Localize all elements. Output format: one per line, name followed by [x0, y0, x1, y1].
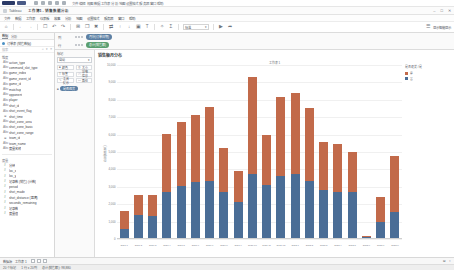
field-menu-icon[interactable]: ≡ — [50, 48, 52, 51]
marks-shelf-pill-row[interactable]: ■ 是否退货 — [55, 83, 94, 91]
bar-segment-yes[interactable] — [305, 108, 314, 181]
data-pane-tabs[interactable]: 数据 分析 — [0, 33, 54, 40]
menu-item-file[interactable]: 文件 — [4, 16, 10, 21]
bar-segment-no[interactable] — [333, 192, 342, 239]
menu-item-format[interactable]: 设置格式 — [87, 16, 99, 21]
share-icon[interactable]: ➦ — [227, 24, 233, 30]
new-worksheet-icon[interactable]: ⊞ — [75, 24, 81, 30]
os-icon-5[interactable] — [62, 1, 66, 5]
bar-column[interactable] — [117, 65, 131, 239]
new-worksheet-icon[interactable] — [31, 259, 35, 263]
drag-handle-icon[interactable] — [75, 44, 83, 46]
menu-item-worksheet[interactable]: 工作表 — [26, 16, 35, 21]
new-sheet-icons[interactable] — [31, 259, 47, 263]
presentation-mode-icon[interactable]: ▶ — [218, 24, 224, 30]
bar-column[interactable] — [160, 65, 174, 239]
bar-segment-yes[interactable] — [291, 93, 300, 174]
stacked-bar[interactable] — [248, 77, 257, 239]
bar-column[interactable] — [359, 65, 373, 239]
redo-icon[interactable]: ↷ — [60, 24, 66, 30]
sort-descending-icon[interactable]: ↓ — [126, 24, 132, 30]
os-icon-1[interactable] — [34, 1, 38, 5]
bar-segment-yes[interactable] — [205, 107, 214, 181]
bar-segment-no[interactable] — [219, 192, 228, 240]
stacked-bar[interactable] — [305, 108, 314, 239]
grid-view-icon[interactable]: ⊟ — [443, 259, 446, 263]
new-dashboard-icon[interactable] — [37, 259, 41, 263]
data-pane-search[interactable]: 搜索 ⌕ ▾ ≡ — [0, 47, 54, 53]
bar-segment-yes[interactable] — [177, 122, 186, 186]
bar-segment-no[interactable] — [262, 185, 271, 239]
minimize-icon[interactable]: – — [433, 9, 435, 13]
bar-segment-yes[interactable] — [376, 197, 385, 221]
tab-analytics[interactable]: 分析 — [11, 34, 17, 39]
bar-segment-no[interactable] — [390, 212, 399, 239]
tab-sheet-1[interactable]: 工作表 1 — [15, 259, 27, 264]
forward-icon[interactable]: → — [27, 24, 33, 30]
stacked-bar[interactable] — [348, 152, 357, 239]
measure-measure-values[interactable]: #度量值 — [0, 211, 54, 216]
legend-item-yes[interactable]: 是 — [405, 71, 451, 75]
bar-column[interactable] — [174, 65, 188, 239]
marks-color-button[interactable]: ■颜色 — [57, 65, 74, 70]
bar-column[interactable] — [374, 65, 388, 239]
tab-data[interactable]: 数据 — [2, 33, 8, 39]
new-story-icon[interactable] — [43, 259, 47, 263]
bar-segment-yes[interactable] — [134, 195, 143, 215]
stacked-bar[interactable] — [120, 211, 129, 239]
marks-shelf-pill[interactable]: 是否退货 — [60, 86, 78, 91]
search-icon[interactable]: ⌕ — [42, 48, 44, 51]
stacked-bar[interactable] — [276, 97, 285, 239]
bar-segment-no[interactable] — [276, 176, 285, 239]
bar-column[interactable] — [231, 65, 245, 239]
menu-item-data[interactable]: 数据 — [15, 16, 21, 21]
marks-detail-button[interactable]: ⓘ详细信息 — [76, 72, 93, 77]
menu-item-map[interactable]: 地图 — [76, 16, 82, 21]
duplicate-sheet-icon[interactable]: ❐ — [84, 24, 90, 30]
bar-segment-yes[interactable] — [390, 156, 399, 212]
sort-fields-icon[interactable]: ▾ — [46, 48, 48, 51]
show-me-button[interactable]: ☰ 显示智能显示 — [425, 24, 451, 30]
bar-segment-no[interactable] — [177, 186, 186, 239]
bar-segment-yes[interactable] — [348, 152, 357, 192]
bar-column[interactable] — [260, 65, 274, 239]
pill-columns-field[interactable]: 月份(订单日期) — [86, 34, 112, 39]
menu-item-window[interactable]: 窗口 — [118, 16, 124, 21]
menu-bar[interactable]: 文件 数据 工作表 仪表板 故事 分析 地图 设置格式 服务器 窗口 帮助 — [0, 15, 454, 22]
bar-segment-no[interactable] — [191, 182, 200, 239]
menu-item-analysis[interactable]: 分析 — [65, 16, 71, 21]
plot-area[interactable]: 01,0002,0003,0004,0005,0006,0007,0008,00… — [117, 65, 402, 239]
status-bar[interactable]: 数据源 工作表 1 ⊟ ⌖ — [0, 257, 454, 264]
os-quick-icons[interactable] — [26, 1, 66, 5]
bar-column[interactable] — [274, 65, 288, 239]
bar-segment-no[interactable] — [305, 181, 314, 239]
toolbar[interactable]: ⌂ ← → ☐ ↶ ↷ ⊞ ❐ ✖ ⇄ ↑ ↓ ▣ T ✧ Σ 标准 ▾ ▶ ➦… — [0, 22, 454, 33]
stacked-bar[interactable] — [177, 122, 186, 239]
tab-data-source[interactable]: 数据源 — [3, 259, 12, 264]
os-icon-2[interactable] — [41, 1, 45, 5]
stacked-bar[interactable] — [191, 115, 200, 239]
stacked-bar[interactable] — [390, 156, 399, 239]
stacked-bar[interactable] — [319, 142, 328, 239]
legend-item-no[interactable]: 否 — [405, 77, 451, 81]
data-source-row[interactable]: 订单表 (销售数据) — [0, 40, 54, 47]
save-icon[interactable]: ☐ — [42, 24, 48, 30]
bar-segment-yes[interactable] — [276, 97, 285, 177]
columns-shelf[interactable]: 列 月份(订单日期) — [55, 33, 454, 41]
chart-canvas[interactable]: 销售额月分布 工作表 1 总计(销售额) 01,0002,0003,0004,0… — [95, 50, 454, 257]
swap-rows-columns-icon[interactable]: ⇄ — [108, 24, 114, 30]
bar-segment-yes[interactable] — [162, 134, 171, 191]
maximize-icon[interactable]: □ — [441, 9, 443, 13]
labels-icon[interactable]: T — [144, 24, 150, 30]
close-icon[interactable]: ✕ — [448, 9, 451, 13]
bar-segment-no[interactable] — [205, 181, 214, 239]
bar-segment-no[interactable] — [148, 216, 157, 239]
tableau-home-icon[interactable]: ⌂ — [3, 24, 9, 30]
totals-icon[interactable]: Σ — [168, 24, 174, 30]
highlight-icon[interactable]: ✧ — [159, 24, 165, 30]
stacked-bar[interactable] — [205, 107, 214, 239]
bar-column[interactable] — [146, 65, 160, 239]
fit-select[interactable]: 标准 ▾ — [183, 24, 209, 30]
bar-segment-yes[interactable] — [333, 144, 342, 192]
bar-segment-no[interactable] — [234, 202, 243, 239]
